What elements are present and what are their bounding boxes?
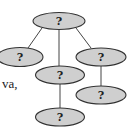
node-label: ? (98, 89, 104, 102)
nodes: ?????? (0, 13, 126, 127)
partial-text: va, (2, 76, 18, 92)
node-label: ? (57, 69, 63, 82)
tree-diagram: ?????? va, (0, 0, 132, 131)
edge-root-right (76, 28, 91, 48)
node-right-child: ? (76, 86, 126, 104)
node-label: ? (57, 111, 63, 124)
node-left: ? (0, 48, 43, 67)
node-label: ? (17, 51, 23, 64)
node-root: ? (33, 13, 85, 30)
node-middle: ? (36, 66, 85, 84)
tree-canvas: ?????? (0, 0, 132, 131)
edge-root-left (28, 28, 42, 48)
node-bottom: ? (36, 108, 85, 126)
node-label: ? (98, 51, 104, 64)
node-label: ? (56, 15, 62, 28)
node-right: ? (76, 48, 126, 66)
